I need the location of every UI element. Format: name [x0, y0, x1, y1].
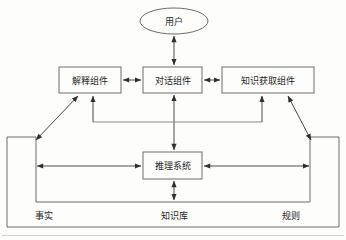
label-user: 用户: [165, 16, 183, 27]
edge-knowledge-acquisition-rules: [288, 96, 311, 140]
label-inference-system: 推理系统: [155, 160, 191, 171]
label-knowledge-acquisition-component: 知识获取组件: [241, 75, 295, 86]
label-rules: 规则: [282, 210, 300, 221]
diagram-page: 用户 解释组件 对话组件 知识获取组件 推理系统 事实 知识库 规则: [0, 0, 346, 240]
label-explanation-component: 解释组件: [72, 75, 108, 86]
expert-system-diagram: 用户 解释组件 对话组件 知识获取组件 推理系统 事实 知识库 规则: [0, 0, 346, 240]
label-dialogue-component: 对话组件: [155, 75, 191, 86]
label-knowledge-base: 知识库: [161, 210, 188, 221]
edge-facts-explanation: [36, 96, 78, 140]
label-facts: 事实: [35, 210, 53, 221]
